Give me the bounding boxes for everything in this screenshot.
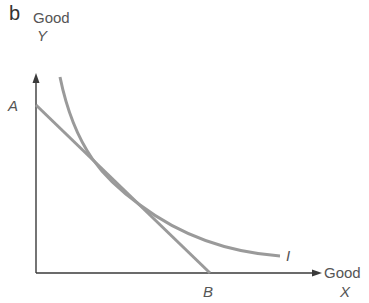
budget-line [36, 105, 210, 273]
x-axis-arrow-icon [312, 270, 322, 277]
diagram-canvas [0, 0, 369, 303]
indifference-curve [60, 77, 280, 256]
axes [33, 73, 323, 277]
y-axis-arrow-icon [33, 73, 40, 83]
